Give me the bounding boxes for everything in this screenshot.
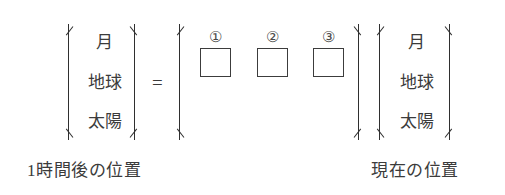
left-matrix-cell-moon: 月 xyxy=(96,34,114,51)
bracket-stem xyxy=(379,24,380,140)
answer-box-2[interactable] xyxy=(257,48,288,77)
left-matrix-close-bracket xyxy=(128,18,142,146)
right-matrix-column: 月 地球 太陽 xyxy=(390,34,444,130)
bracket-serif-top xyxy=(66,26,74,35)
right-matrix-close-bracket xyxy=(443,18,457,146)
bracket-serif-top xyxy=(177,26,185,35)
left-matrix-cell-earth: 地球 xyxy=(88,74,123,91)
matrix-equation-figure: 月 地球 太陽 = ① ② ③ 月 地球 太陽 xyxy=(0,0,505,195)
right-matrix-open-bracket xyxy=(373,18,387,146)
bracket-stem xyxy=(179,24,180,140)
bracket-stem xyxy=(68,24,69,140)
answer-box-1[interactable] xyxy=(200,48,231,77)
bracket-serif-bottom xyxy=(177,129,185,138)
bracket-stem xyxy=(358,24,359,140)
right-matrix-cell-moon: 月 xyxy=(408,34,426,51)
left-matrix-column: 月 地球 太陽 xyxy=(78,34,132,130)
left-matrix-open-bracket xyxy=(62,18,76,146)
operator-matrix-open-bracket xyxy=(173,18,187,146)
right-matrix-cell-sun: 太陽 xyxy=(400,113,435,130)
circled-number-2-icon: ② xyxy=(266,30,279,45)
operator-matrix-close-bracket xyxy=(352,18,366,146)
answer-group-1: ① xyxy=(200,30,231,77)
bracket-stem xyxy=(134,24,135,140)
circled-number-1-icon: ① xyxy=(209,30,222,45)
left-matrix-cell-sun: 太陽 xyxy=(88,113,123,130)
right-matrix-cell-earth: 地球 xyxy=(400,74,435,91)
circled-number-3-icon: ③ xyxy=(322,30,335,45)
right-matrix-caption: 現在の位置 xyxy=(371,162,459,179)
bracket-serif-bottom xyxy=(377,129,385,138)
answer-group-3: ③ xyxy=(313,30,344,77)
equals-sign: = xyxy=(152,73,163,92)
left-matrix-caption: 1時間後の位置 xyxy=(27,162,141,179)
bracket-stem xyxy=(449,24,450,140)
bracket-serif-top xyxy=(377,26,385,35)
answer-box-3[interactable] xyxy=(313,48,344,77)
bracket-serif-bottom xyxy=(66,129,74,138)
answer-group-2: ② xyxy=(257,30,288,77)
